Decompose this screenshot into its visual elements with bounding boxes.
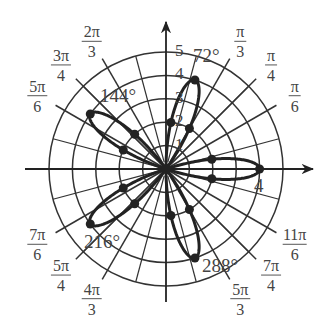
data-point [130,130,139,139]
angle-label-numerator: 5π [232,281,248,298]
angle-label-denominator: 6 [291,246,299,263]
angle-label: 7π6 [27,226,47,263]
polar-rose-chart: 12345 π6π4π32π33π45π67π65π44π35π37π411π6… [0,0,334,336]
data-point [207,174,216,183]
angle-label-numerator: π [236,23,244,40]
angle-label-numerator: 3π [53,47,69,64]
r-tick-label: 5 [175,41,184,60]
petal-annotation: 4 [254,175,264,196]
angle-label: π6 [289,78,301,115]
angle-label: 2π3 [82,23,102,60]
data-point [185,205,194,214]
petal-annotation: 288° [202,255,238,276]
radial-tick-labels: 12345 [175,41,184,154]
angle-label-numerator: 4π [84,281,100,298]
angle-label: 4π3 [82,281,102,318]
data-point [255,165,264,174]
angle-label-denominator: 3 [236,43,244,60]
petal-annotation: 72° [193,45,220,66]
angle-label-denominator: 4 [267,277,275,294]
angle-label: π3 [234,23,246,60]
angle-label-numerator: 7π [263,257,279,274]
data-point [86,220,95,229]
data-point [119,145,128,154]
petal-annotation: 216° [84,231,120,252]
r-tick-label: 4 [175,64,184,83]
data-point [185,124,194,133]
angle-label-numerator: 11π [283,226,306,243]
angle-label: 5π3 [230,281,250,318]
r-tick-label: 2 [175,111,184,130]
angle-label-denominator: 4 [57,277,65,294]
angle-label-numerator: π [267,47,275,64]
angle-label-numerator: 2π [84,23,100,40]
angle-label-denominator: 3 [88,43,96,60]
angle-label-denominator: 6 [291,98,299,115]
angle-label-numerator: 5π [29,78,45,95]
angle-label-numerator: 7π [29,226,45,243]
angle-label-denominator: 3 [236,301,244,318]
angle-label-denominator: 4 [267,67,275,84]
data-point [190,75,199,84]
angle-label-denominator: 6 [33,98,41,115]
angle-label-denominator: 3 [88,301,96,318]
data-point [86,109,95,118]
angle-label: 7π4 [261,257,281,294]
angle-label: 5π6 [27,78,47,115]
data-point [166,211,175,220]
data-point [119,184,128,193]
data-point [207,155,216,164]
angle-label: 5π4 [51,257,71,294]
r-tick-label: 3 [175,88,184,107]
angle-label-denominator: 4 [57,67,65,84]
angle-label: 11π6 [283,226,307,263]
petal-annotation: 144° [100,85,136,106]
r-tick-label: 1 [175,135,184,154]
angle-label: 3π4 [51,47,71,84]
angle-label-numerator: π [291,78,299,95]
angle-label: π4 [265,47,277,84]
angle-label-numerator: 5π [53,257,69,274]
data-point [130,199,139,208]
angle-label-denominator: 6 [33,246,41,263]
data-point [190,254,199,263]
